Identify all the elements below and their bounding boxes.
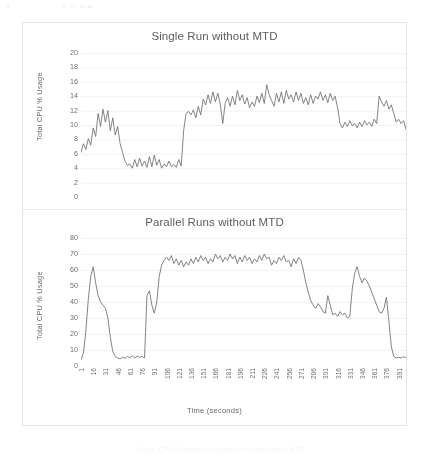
y-tick-label: 10 — [70, 121, 78, 128]
y-tick-label: 12 — [70, 107, 78, 114]
y-tick-label: 20 — [70, 49, 78, 56]
x-axis-ticks: 1163146617691106121136151166181196211226… — [23, 368, 406, 406]
plot-wrapper-top: 02468101214161820 — [23, 49, 406, 199]
y-tick-label: 14 — [70, 93, 78, 100]
x-tick-label: 196 — [237, 368, 244, 379]
y-tick-label: 18 — [70, 64, 78, 71]
y-tick-label: 8 — [74, 136, 78, 143]
x-tick-label: 46 — [115, 368, 122, 375]
x-tick-label: 76 — [139, 368, 146, 375]
x-tick-label: 391 — [396, 368, 403, 379]
chart-svg — [81, 53, 406, 197]
plot-area-top — [81, 53, 406, 197]
x-tick-label: 166 — [212, 368, 219, 379]
y-tick-label: 10 — [70, 346, 78, 353]
y-tick-label: 4 — [74, 165, 78, 172]
y-tick-label: 2 — [74, 179, 78, 186]
chart-title-single-run: Single Run without MTD — [23, 23, 406, 42]
running-head: C. D. et al. — [62, 3, 95, 9]
x-tick-label: 1 — [78, 368, 85, 372]
y-tick-label: 50 — [70, 282, 78, 289]
x-tick-label: 136 — [188, 368, 195, 379]
x-tick-label: 376 — [383, 368, 390, 379]
y-axis-ticks-top: 02468101214161820 — [56, 53, 78, 197]
chart-panel-parallel-runs: Parallel Runs without MTD Total CPU % Us… — [23, 209, 406, 426]
chart-svg — [81, 238, 406, 366]
x-tick-label: 226 — [261, 368, 268, 379]
x-tick-label: 211 — [249, 368, 256, 379]
y-axis-ticks-bottom: 01020304050607080 — [56, 238, 78, 366]
x-tick-label: 181 — [225, 368, 232, 379]
y-tick-label: 80 — [70, 234, 78, 241]
x-axis-label: Time (seconds) — [23, 406, 406, 415]
plot-wrapper-bottom: 01020304050607080 1163146617691106121136… — [23, 234, 406, 422]
x-tick-label: 346 — [359, 368, 366, 379]
data-series-line — [81, 85, 406, 169]
x-tick-label: 106 — [164, 368, 171, 379]
x-tick-label: 61 — [127, 368, 134, 375]
page-header: 4 C. D. et al. — [0, 0, 427, 14]
y-tick-label: 6 — [74, 150, 78, 157]
x-tick-label: 331 — [347, 368, 354, 379]
y-tick-label: 40 — [70, 298, 78, 305]
chart-panel-single-run: Single Run without MTD Total CPU % Usage… — [23, 23, 406, 209]
x-tick-label: 286 — [310, 368, 317, 379]
figure-container: Single Run without MTD Total CPU % Usage… — [22, 22, 407, 426]
y-tick-label: 16 — [70, 78, 78, 85]
y-tick-label: 30 — [70, 314, 78, 321]
x-tick-label: 316 — [335, 368, 342, 379]
y-tick-label: 70 — [70, 250, 78, 257]
chart-title-parallel-runs: Parallel Runs without MTD — [23, 210, 406, 228]
x-tick-label: 301 — [322, 368, 329, 379]
x-tick-label: 271 — [298, 368, 305, 379]
x-tick-label: 361 — [371, 368, 378, 379]
y-tick-label: 20 — [70, 330, 78, 337]
data-series-line — [81, 254, 406, 360]
x-tick-label: 256 — [286, 368, 293, 379]
page-number: 4 — [6, 3, 10, 9]
y-tick-label: 0 — [74, 193, 78, 200]
x-tick-label: 16 — [90, 368, 97, 375]
x-tick-label: 121 — [176, 368, 183, 379]
plot-area-bottom — [81, 238, 406, 366]
x-tick-label: 151 — [200, 368, 207, 379]
figure-caption: Figure. CPU Utilization Comparison with … — [60, 446, 380, 458]
x-tick-label: 241 — [273, 368, 280, 379]
x-tick-label: 91 — [151, 368, 158, 375]
y-tick-label: 60 — [70, 266, 78, 273]
x-tick-label: 31 — [102, 368, 109, 375]
